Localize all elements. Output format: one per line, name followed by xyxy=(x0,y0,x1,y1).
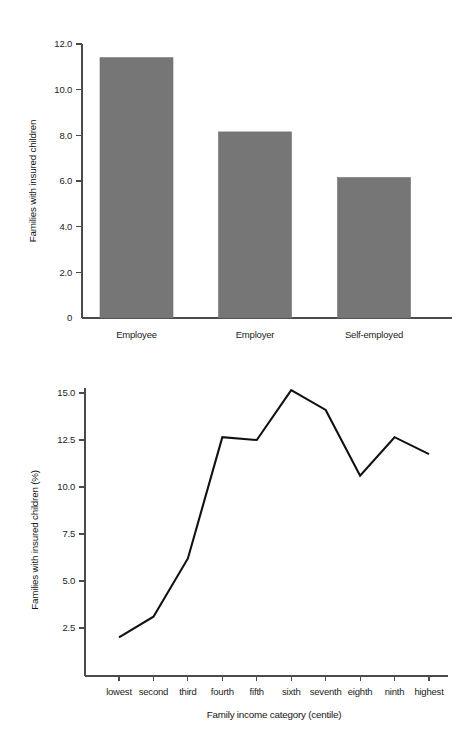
y-axis-title: Families with insured children (%) xyxy=(29,470,40,610)
x-axis-category-label: seventh xyxy=(310,686,342,697)
x-axis-category-label: ninth xyxy=(385,686,405,697)
x-axis-category-label: Employee xyxy=(116,329,157,340)
y-axis-tick-label: 6.0 xyxy=(59,175,72,186)
y-axis-tick-label: 10.0 xyxy=(54,84,72,95)
y-axis-tick-label: 2.5 xyxy=(62,622,75,633)
bar xyxy=(219,132,292,318)
y-axis-tick-label: 12.0 xyxy=(54,38,72,49)
x-axis-category-label: highest xyxy=(414,686,444,697)
y-axis-tick-label: 0 xyxy=(67,312,72,323)
x-axis-category-label: second xyxy=(139,686,168,697)
y-axis-tick-label: 4.0 xyxy=(59,221,72,232)
y-axis-tick-label: 5.0 xyxy=(62,575,75,586)
bar xyxy=(338,178,411,318)
y-axis-tick-label: 7.5 xyxy=(62,528,75,539)
data-series-line xyxy=(119,390,429,637)
x-axis-category-label: eighth xyxy=(348,686,373,697)
y-axis-title: Families with insured children xyxy=(27,120,38,243)
bar xyxy=(100,58,173,318)
x-axis-title: Family income category (centile) xyxy=(207,709,342,720)
y-axis-tick-label: 12.5 xyxy=(57,434,75,445)
x-axis-category-label: Employer xyxy=(236,329,275,340)
y-axis-tick-label: 8.0 xyxy=(59,130,72,141)
x-axis-category-label: sixth xyxy=(282,686,301,697)
x-axis-category-label: lowest xyxy=(106,686,132,697)
x-axis-category-label: Self-employed xyxy=(345,329,403,340)
y-axis-tick-label: 2.0 xyxy=(59,267,72,278)
y-axis-tick-label: 10.0 xyxy=(57,481,75,492)
bar-chart-svg: 02.04.06.08.010.012.0EmployeeEmployerSel… xyxy=(0,0,465,375)
x-axis-category-label: third xyxy=(179,686,196,697)
line-chart-svg: 2.55.07.510.012.515.0lowestsecondthirdfo… xyxy=(0,370,465,749)
bar-chart-figure: 02.04.06.08.010.012.0EmployeeEmployerSel… xyxy=(0,0,465,375)
y-axis-tick-label: 15.0 xyxy=(57,387,75,398)
x-axis-category-label: fifth xyxy=(250,686,264,697)
x-axis-category-label: fourth xyxy=(211,686,234,697)
line-chart-figure: 2.55.07.510.012.515.0lowestsecondthirdfo… xyxy=(0,370,465,749)
